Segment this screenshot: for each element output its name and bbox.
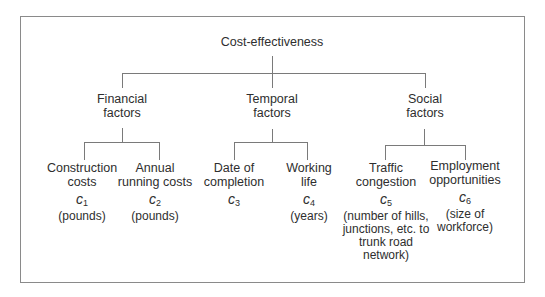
criterion-c4: Working life c4 (years)	[286, 161, 332, 223]
category-label-line1: Financial	[97, 92, 147, 106]
root-connector	[272, 56, 273, 88]
criterion-label-line1: Construction	[47, 161, 117, 175]
criterion-c5: Traffic congestion c5 (number of hills, …	[343, 161, 430, 262]
financial-drop	[122, 73, 123, 88]
c6-drop	[465, 145, 466, 160]
category-financial: Financial factors	[97, 92, 147, 120]
criterion-label-line2: opportunities	[429, 173, 501, 187]
category-label-line2: factors	[406, 106, 444, 120]
criterion-unit: workforce)	[429, 221, 501, 234]
temporal-branch-bar	[234, 142, 308, 143]
social-connector	[424, 129, 425, 145]
criterion-unit: network)	[343, 249, 430, 262]
social-drop	[425, 73, 426, 88]
criterion-label-line1: Annual	[118, 161, 192, 175]
root-node: Cost-effectiveness	[221, 35, 324, 49]
social-branch-bar	[385, 145, 466, 146]
criterion-label-line1: Employment	[429, 159, 501, 173]
criterion-c1: Construction costs c1 (pounds)	[47, 161, 117, 223]
criterion-unit: (pounds)	[47, 210, 117, 223]
criterion-symbol: c5	[343, 193, 430, 210]
category-temporal: Temporal factors	[246, 92, 297, 120]
criterion-symbol: c1	[47, 193, 117, 210]
financial-connector	[122, 128, 123, 142]
c5-drop	[385, 145, 386, 160]
criterion-unit: (years)	[286, 210, 332, 223]
criterion-c6: Employment opportunities c6 (size of wor…	[429, 159, 501, 234]
root-label: Cost-effectiveness	[221, 35, 324, 49]
c4-drop	[307, 142, 308, 160]
criterion-label-line1: Date of	[204, 161, 264, 175]
criterion-unit: (pounds)	[118, 210, 192, 223]
criterion-label-line1: Working	[286, 161, 332, 175]
c2-drop	[159, 142, 160, 160]
temporal-connector	[272, 129, 273, 142]
c3-drop	[234, 142, 235, 160]
criterion-label-line2: costs	[47, 175, 117, 189]
financial-branch-bar	[84, 142, 160, 143]
category-label-line1: Social	[406, 92, 444, 106]
criterion-symbol: c2	[118, 193, 192, 210]
criterion-c3: Date of completion c3	[204, 161, 264, 210]
criterion-label-line2: congestion	[343, 175, 430, 189]
criterion-label-line1: Traffic	[343, 161, 430, 175]
category-label-line1: Temporal	[246, 92, 297, 106]
criterion-label-line2: life	[286, 175, 332, 189]
criterion-label-line2: completion	[204, 175, 264, 189]
category-label-line2: factors	[97, 106, 147, 120]
category-social: Social factors	[406, 92, 444, 120]
criterion-c2: Annual running costs c2 (pounds)	[118, 161, 192, 223]
criterion-symbol: c3	[204, 193, 264, 210]
root-branch-bar	[122, 73, 426, 74]
c1-drop	[84, 142, 85, 160]
criterion-symbol: c6	[429, 191, 501, 208]
criterion-symbol: c4	[286, 193, 332, 210]
category-label-line2: factors	[246, 106, 297, 120]
criterion-label-line2: running costs	[118, 175, 192, 189]
